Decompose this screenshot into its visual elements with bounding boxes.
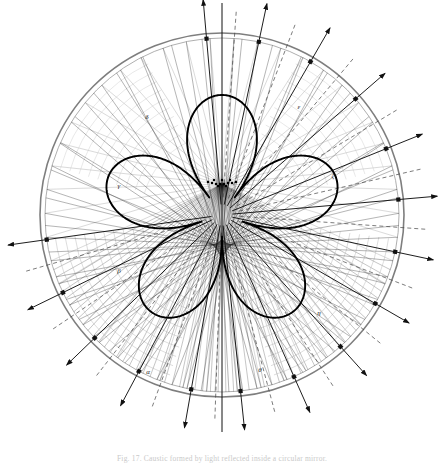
figure-caption: Fig. 17. Caustic formed by light reflect… (0, 454, 444, 464)
sector-label-6: η (317, 309, 321, 317)
sector-label-3: γ (118, 182, 121, 190)
sector-label-8: θ (258, 366, 262, 374)
sector-label-7: α (146, 368, 150, 376)
caustic-diagram: δεγζβηαθ (0, 0, 444, 464)
figure-root: δεγζβηαθ Fig. 17. Caustic formed by ligh… (0, 0, 444, 464)
sector-label-2: ε (298, 103, 301, 111)
sector-label-5: β (116, 267, 121, 275)
